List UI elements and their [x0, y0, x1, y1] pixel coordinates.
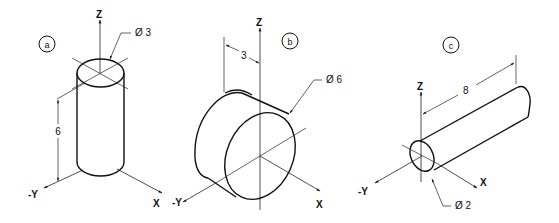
end-cap-arc [518, 87, 530, 117]
svg-text:c: c [449, 41, 454, 51]
diameter-leader [110, 33, 131, 59]
extension-line [57, 83, 85, 99]
length-dimension-line [249, 58, 259, 63]
x-axis-label: X [316, 199, 323, 210]
length-dimension: 3 [241, 50, 247, 61]
diameter-leader [290, 80, 322, 113]
neg-y-axis [375, 156, 422, 183]
x-axis [117, 169, 162, 193]
neg-y-label: -Y [358, 186, 368, 197]
view-b: b Z -Y X 3 Ø 6 [172, 17, 343, 211]
isometric-cylinders-figure: a Z -Y X 6 Ø 3 b Z [0, 0, 559, 223]
diameter-dimension: Ø 3 [135, 27, 152, 38]
cylinder-edge [420, 87, 518, 141]
x-axis-label: X [153, 198, 160, 209]
diameter-dimension: Ø 6 [326, 74, 343, 85]
back-ellipse-arc [195, 92, 242, 178]
neg-y-axis [183, 184, 214, 202]
x-axis [438, 164, 477, 188]
view-a: a Z -Y X 6 Ø 3 [28, 9, 162, 209]
length-dimension-line [476, 63, 514, 85]
x-axis-label: X [480, 177, 487, 188]
view-label-b: b [282, 33, 298, 49]
cylinder-edge [242, 93, 289, 114]
cylinder-edge [208, 178, 236, 197]
neg-y-axis [44, 170, 83, 188]
z-axis-label: Z [417, 81, 423, 92]
length-dimension-line [226, 45, 239, 51]
view-label-a: a [39, 36, 55, 52]
z-axis-label: Z [96, 9, 102, 20]
length-dimension: 8 [463, 85, 469, 96]
neg-y-label: -Y [172, 197, 182, 208]
x-axis [260, 156, 320, 191]
svg-text:a: a [44, 40, 49, 50]
view-c: c Z -Y X 8 Ø 2 [358, 37, 530, 211]
diameter-dimension: Ø 2 [455, 200, 472, 211]
height-dimension: 6 [55, 126, 61, 137]
bottom-arc [77, 162, 124, 176]
diameter-leader [432, 179, 451, 206]
neg-y-label: -Y [28, 189, 38, 200]
view-label-c: c [443, 37, 459, 53]
z-axis-label: Z [256, 17, 262, 28]
svg-text:b: b [287, 37, 292, 47]
length-dimension-line [423, 95, 458, 114]
